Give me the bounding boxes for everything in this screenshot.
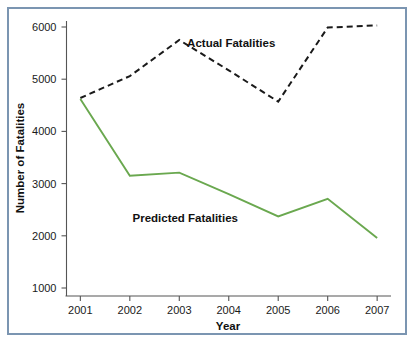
line-chart: 100020003000400050006000 200120022003200… — [0, 0, 416, 351]
y-tick-label: 2000 — [32, 230, 56, 242]
x-tick-label: 2003 — [167, 304, 191, 316]
x-tick-label: 2007 — [365, 304, 389, 316]
series-annotations: Actual FatalitiesPredicted Fatalities — [132, 37, 275, 224]
x-tick-label: 2001 — [68, 304, 92, 316]
x-tick-label: 2002 — [118, 304, 142, 316]
y-tick-label: 4000 — [32, 125, 56, 137]
y-axis-title: Number of Fatalities — [14, 103, 26, 214]
series-lines — [80, 25, 377, 237]
x-axis: 2001200220032004200520062007 — [66, 296, 392, 316]
x-tick-label: 2006 — [315, 304, 339, 316]
y-tick-label: 3000 — [32, 178, 56, 190]
y-axis: 100020003000400050006000 — [32, 21, 66, 296]
y-tick-label: 5000 — [32, 73, 56, 85]
y-tick-label: 6000 — [32, 21, 56, 33]
x-tick-label: 2005 — [266, 304, 290, 316]
y-tick-label: 1000 — [32, 282, 56, 294]
x-tick-label: 2004 — [217, 304, 241, 316]
chart-figure: 100020003000400050006000 200120022003200… — [0, 0, 416, 351]
series-annotation: Actual Fatalities — [187, 37, 275, 49]
x-axis-title: Year — [216, 320, 241, 332]
series-annotation: Predicted Fatalities — [132, 212, 237, 224]
